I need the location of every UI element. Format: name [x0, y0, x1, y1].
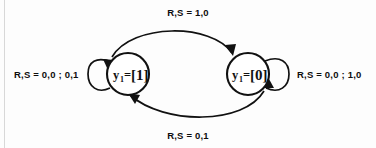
transition-top-arrowhead [225, 44, 236, 56]
self-loop-left-label: R,S = 0,0 ; 0,1 [14, 69, 79, 80]
state-transition-diagram: y 1 = [1] y 1 = [0] R,S = 1,0 R,S = 0,1 … [0, 0, 376, 148]
transition-bottom-label: R,S = 0,1 [167, 130, 209, 141]
self-loop-right-label: R,S = 0,0 ; 1,0 [297, 69, 362, 80]
transition-top-label: R,S = 1,0 [167, 7, 209, 18]
state-right-var: y [232, 68, 239, 82]
state-left-value: [1] [131, 67, 149, 83]
diagram-canvas: y 1 = [1] y 1 = [0] R,S = 1,0 R,S = 0,1 … [0, 0, 376, 148]
state-node-left[interactable]: y 1 = [1] [107, 53, 149, 95]
state-node-right[interactable]: y 1 = [0] [227, 53, 269, 95]
state-left-var: y [113, 68, 120, 82]
state-right-value: [0] [250, 67, 268, 83]
